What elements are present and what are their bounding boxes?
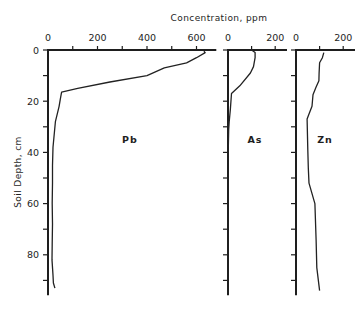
as-panel-label: As [247, 134, 262, 145]
y-axis-title: Soil Depth, cm [13, 136, 23, 208]
panel-as: 0200As [223, 32, 287, 295]
y-tick-label: 80 [27, 249, 39, 260]
as-profile-line [228, 50, 255, 293]
pb-panel-label: Pb [122, 134, 138, 145]
pb-x-tick-label: 200 [88, 32, 106, 43]
y-tick-label: 0 [33, 45, 39, 56]
soil-depth-concentration-chart: Concentration, ppm Soil Depth, cm 020040… [0, 0, 364, 309]
zn-profile-line [307, 53, 324, 291]
zn-x-tick-label: 0 [293, 32, 299, 43]
zn-panel-label: Zn [317, 134, 333, 145]
y-tick-label: 60 [27, 198, 39, 209]
panel-pb: 0200400600Pb [43, 32, 216, 295]
y-tick-label: 40 [27, 147, 39, 158]
y-tick-labels: 020406080 [27, 45, 39, 261]
pb-x-tick-label: 0 [45, 32, 51, 43]
x-axis-title: Concentration, ppm [171, 13, 268, 23]
as-x-tick-label: 200 [266, 32, 284, 43]
y-tick-label: 20 [27, 96, 39, 107]
pb-x-tick-label: 400 [138, 32, 156, 43]
panels: 0200400600Pb0200As0200Zn020406080 [27, 32, 355, 295]
as-x-tick-label: 0 [225, 32, 231, 43]
pb-x-tick-label: 600 [187, 32, 205, 43]
panel-zn: 0200Zn [291, 32, 355, 295]
zn-x-tick-label: 200 [334, 32, 352, 43]
pb-profile-line [52, 51, 205, 288]
